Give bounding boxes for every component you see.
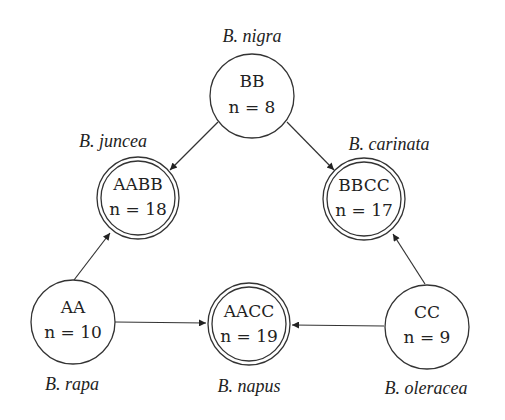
edge-aa-to-aabb [74,233,110,280]
genome-label: BBCC [338,175,389,195]
genome-label: BB [240,71,265,91]
edge-cc-to-aacc [292,325,384,326]
genome-label: AACC [223,301,275,321]
species-label-b-napus: B. napus [218,376,281,396]
genome-label: AA [60,297,86,317]
chromosome-count: n = 19 [220,326,278,346]
allotetraploid-inner-circle [101,161,175,235]
edge-bb-to-bbcc [287,122,334,170]
node-aacc: AACC n = 19 B. napus [208,283,290,396]
chromosome-count: n = 17 [335,200,393,220]
node-cc: CC n = 9 B. oleracea [385,285,469,398]
node-bbcc: B. carinata BBCC n = 17 [323,134,430,240]
edge-cc-to-bbcc [393,234,425,284]
allotetraploid-inner-circle [212,287,286,361]
chromosome-count: n = 9 [404,327,451,347]
chromosome-count: n = 8 [229,97,276,117]
node-aa: AA n = 10 B. rapa [31,280,115,394]
species-label-b-nigra: B. nigra [222,26,281,46]
edge-bb-to-aabb [170,122,218,170]
species-label-b-carinata: B. carinata [349,134,430,154]
species-label-b-oleracea: B. oleracea [385,378,468,398]
chromosome-count: n = 18 [109,199,167,219]
edge-aa-to-aacc [115,322,206,323]
genome-label: CC [414,302,440,322]
allotetraploid-inner-circle [327,162,401,236]
diploid-circle [210,54,294,138]
node-aabb: B. juncea AABB n = 18 [79,131,179,239]
species-label-b-juncea: B. juncea [79,131,147,151]
chromosome-count: n = 10 [44,322,102,342]
node-bb: B. nigra BB n = 8 [210,26,294,138]
genome-label: AABB [112,174,163,194]
species-label-b-rapa: B. rapa [45,374,99,394]
triangle-of-u-diagram: B. nigra BB n = 8 B. juncea AABB n = 18 … [0,0,505,420]
